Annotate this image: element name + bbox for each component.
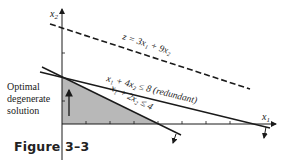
x2-axis-label: x2 — [49, 8, 58, 21]
objective-line — [50, 24, 250, 89]
optimal-degenerate-annotation: Optimal degenerate solution — [7, 81, 50, 117]
constraint-binding-direction-arrow — [173, 134, 176, 143]
constraint-redundant-direction-arrow — [264, 127, 266, 138]
annotation-line-2: degenerate — [7, 93, 50, 105]
annotation-line-3: solution — [7, 105, 50, 117]
x1-axis-label: x1 — [261, 111, 270, 124]
annotation-line-1: Optimal — [7, 81, 50, 93]
objective-label: z = 3x₁ + 9x₂ — [120, 31, 173, 57]
figure-caption: Figure 3–3 — [14, 139, 89, 154]
